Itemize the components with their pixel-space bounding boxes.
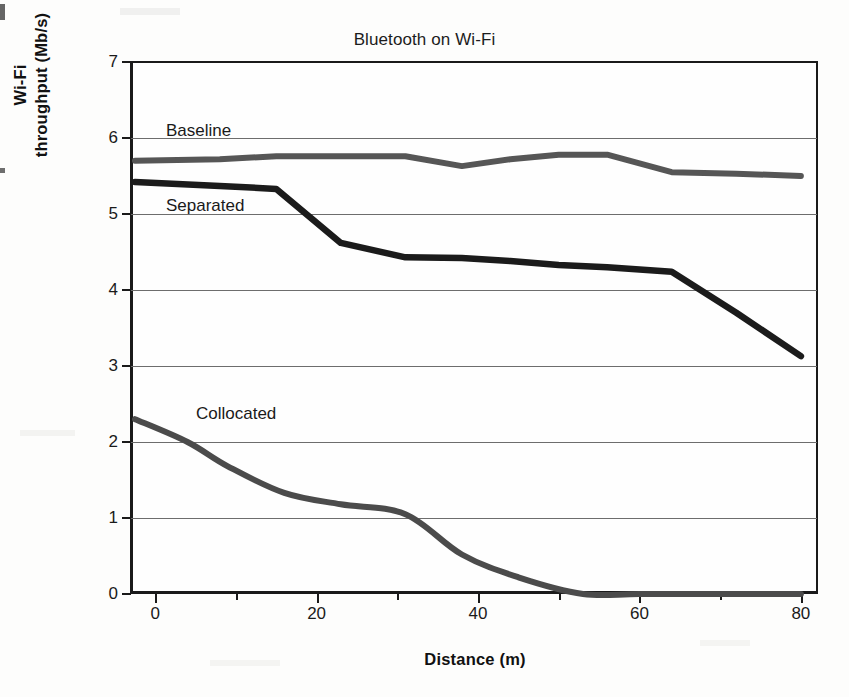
series-line-baseline (135, 155, 801, 176)
series-label-separated: Separated (166, 196, 244, 216)
chart-page: Bluetooth on Wi-Fi Wi-Fi throughput (Mb/… (0, 0, 849, 697)
series-label-baseline: Baseline (166, 121, 231, 141)
series-line-collocated (135, 419, 801, 595)
series-label-collocated: Collocated (196, 404, 276, 424)
series-lines (0, 0, 849, 697)
